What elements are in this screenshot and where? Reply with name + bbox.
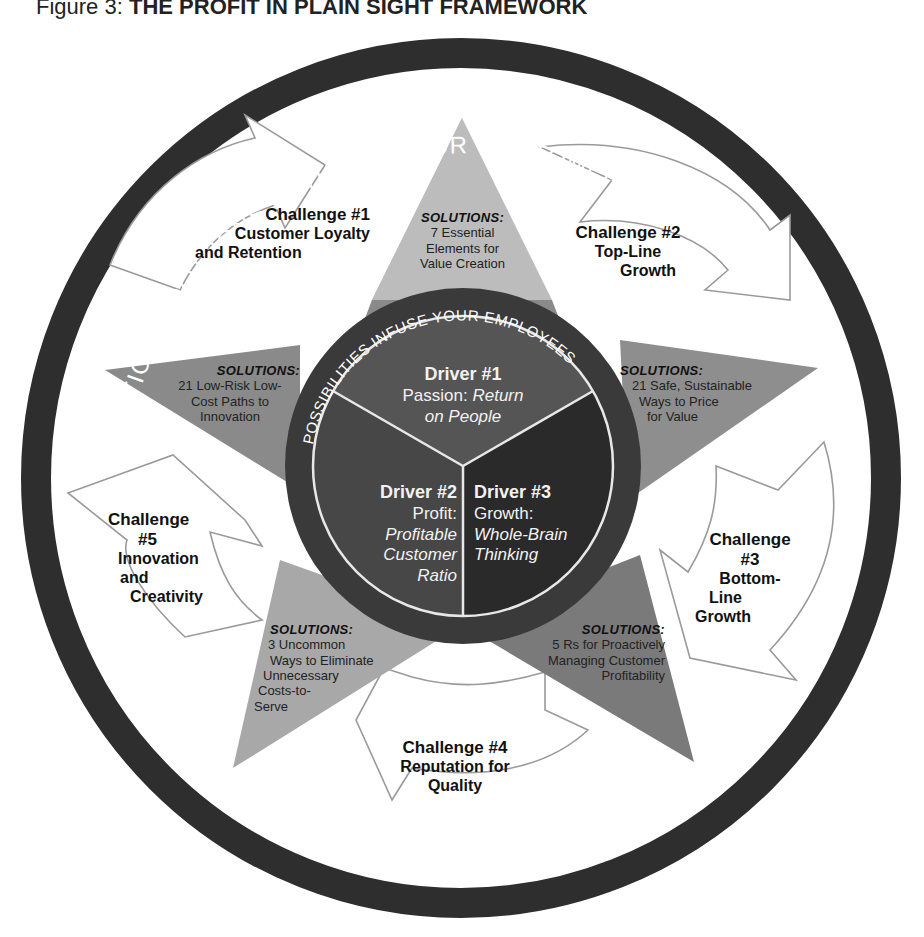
challenge-2-label: Challenge #2 Top-Line Growth (548, 223, 708, 281)
solution-top-label: SOLUTIONS: 7 Essential Elements for Valu… (395, 210, 530, 271)
framework-diagram: PRACTICAL SOLUTIONS ENTHUSE YOUR CUSTOME… (0, 0, 924, 937)
solution-left-label: SOLUTIONS: 21 Low-Risk Low- Cost Paths t… (160, 363, 300, 424)
solution-bottom-left-label: SOLUTIONS: 3 Uncommon Ways to Eliminate … (248, 622, 398, 714)
challenge-5-label: Challenge #5 Innovation and Creativity (108, 510, 228, 607)
driver-2-label: Driver #2 Profit: Profitable Customer Ra… (340, 482, 457, 587)
challenge-3-label: Challenge #3 Bottom- Line Growth (695, 530, 805, 627)
challenge-1-label: Challenge #1 Customer Loyalty and Retent… (195, 205, 370, 263)
solution-bottom-right-label: SOLUTIONS: 5 Rs for Proactively Managing… (515, 622, 665, 683)
challenge-4-label: Challenge #4 Reputation for Quality (380, 738, 530, 796)
solution-right-label: SOLUTIONS: 21 Safe, Sustainable Ways to … (620, 363, 790, 424)
driver-1-label: Driver #1 Passion: Return on People (378, 364, 548, 427)
driver-3-label: Driver #3 Growth: Whole-Brain Thinking (474, 482, 604, 566)
